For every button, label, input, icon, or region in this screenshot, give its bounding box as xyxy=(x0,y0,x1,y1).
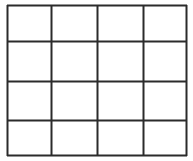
grid-cell-r3-c1 xyxy=(7,81,51,120)
grid-cell-r2-c3 xyxy=(97,41,143,81)
grid-cell-r4-c3 xyxy=(97,120,143,155)
grid-cell-r3-c4 xyxy=(143,81,186,120)
grid-cell-r3-c3 xyxy=(97,81,143,120)
grid-cell-r4-c4 xyxy=(143,120,186,155)
grid-diagram xyxy=(0,0,193,161)
grid-cell-r4-c1 xyxy=(7,120,51,155)
grid-cell-r1-c1 xyxy=(7,5,51,41)
grid-cell-r4-c2 xyxy=(51,120,97,155)
grid-cell-r2-c1 xyxy=(7,41,51,81)
grid-cell-r1-c2 xyxy=(51,5,97,41)
grid-cell-r1-c3 xyxy=(97,5,143,41)
grid-cell-r2-c2 xyxy=(51,41,97,81)
grid-cell-r1-c4 xyxy=(143,5,186,41)
grid-cell-r3-c2 xyxy=(51,81,97,120)
grid-cell-r2-c4 xyxy=(143,41,186,81)
